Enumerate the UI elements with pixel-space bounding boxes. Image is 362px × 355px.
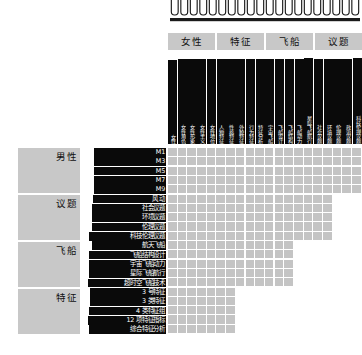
matrix-cell[interactable] xyxy=(216,288,225,296)
matrix-cell[interactable] xyxy=(265,176,274,184)
matrix-cell[interactable] xyxy=(187,288,196,296)
matrix-cell[interactable] xyxy=(255,250,264,258)
matrix-cell[interactable] xyxy=(168,260,177,268)
row-group-header-1[interactable]: 男性 xyxy=(18,148,80,193)
column-label-bar-7[interactable]: 性格特征 xyxy=(226,59,235,144)
matrix-cell[interactable] xyxy=(178,269,187,277)
matrix-cell[interactable] xyxy=(342,148,351,156)
matrix-cell[interactable] xyxy=(207,232,216,240)
matrix-cell[interactable] xyxy=(197,250,206,258)
matrix-cell[interactable] xyxy=(197,297,206,305)
matrix-cell[interactable] xyxy=(313,232,322,240)
matrix-cell[interactable] xyxy=(187,167,196,175)
matrix-cell[interactable] xyxy=(284,167,293,175)
matrix-cell[interactable] xyxy=(187,213,196,221)
matrix-cell[interactable] xyxy=(226,185,235,193)
matrix-cell[interactable] xyxy=(294,204,303,212)
matrix-cell[interactable] xyxy=(236,269,245,277)
matrix-cell[interactable] xyxy=(284,232,293,240)
matrix-cell[interactable] xyxy=(216,241,225,249)
matrix-cell[interactable] xyxy=(304,148,313,156)
matrix-cell[interactable] xyxy=(178,232,187,240)
matrix-cell[interactable] xyxy=(226,315,235,323)
matrix-cell[interactable] xyxy=(216,315,225,323)
matrix-cell[interactable] xyxy=(275,195,284,203)
matrix-cell[interactable] xyxy=(236,185,245,193)
matrix-cell[interactable] xyxy=(168,213,177,221)
matrix-cell[interactable] xyxy=(226,232,235,240)
matrix-cell[interactable] xyxy=(178,297,187,305)
matrix-cell[interactable] xyxy=(265,278,274,286)
matrix-cell[interactable] xyxy=(246,185,255,193)
matrix-cell[interactable] xyxy=(178,195,187,203)
matrix-cell[interactable] xyxy=(187,241,196,249)
matrix-cell[interactable] xyxy=(197,222,206,230)
matrix-cell[interactable] xyxy=(236,241,245,249)
matrix-cell[interactable] xyxy=(168,157,177,165)
column-group-header-3[interactable]: 飞船 xyxy=(266,33,313,50)
matrix-cell[interactable] xyxy=(178,204,187,212)
matrix-cell[interactable] xyxy=(216,250,225,258)
matrix-cell[interactable] xyxy=(313,176,322,184)
matrix-cell[interactable] xyxy=(246,232,255,240)
matrix-cell[interactable] xyxy=(333,157,342,165)
matrix-cell[interactable] xyxy=(187,260,196,268)
matrix-cell[interactable] xyxy=(187,232,196,240)
row-label-bar-17[interactable]: 3 类特征 xyxy=(90,297,166,306)
matrix-cell[interactable] xyxy=(284,148,293,156)
matrix-cell[interactable] xyxy=(178,260,187,268)
column-label-bar-10[interactable]: 特征分析 xyxy=(256,59,265,144)
matrix-cell[interactable] xyxy=(178,148,187,156)
matrix-cell[interactable] xyxy=(304,222,313,230)
matrix-cell[interactable] xyxy=(197,241,206,249)
matrix-cell[interactable] xyxy=(265,241,274,249)
matrix-cell[interactable] xyxy=(275,167,284,175)
matrix-cell[interactable] xyxy=(313,157,322,165)
matrix-cell[interactable] xyxy=(265,250,274,258)
matrix-cell[interactable] xyxy=(323,204,332,212)
matrix-cell[interactable] xyxy=(216,325,225,333)
matrix-cell[interactable] xyxy=(275,269,284,277)
matrix-cell[interactable] xyxy=(236,213,245,221)
matrix-cell[interactable] xyxy=(342,176,351,184)
matrix-cell[interactable] xyxy=(265,232,274,240)
row-label-bar-12[interactable]: 飞船结构设计 xyxy=(89,251,166,260)
matrix-cell[interactable] xyxy=(168,250,177,258)
matrix-cell[interactable] xyxy=(255,278,264,286)
column-label-bar-13[interactable]: 飞船结构 xyxy=(285,59,294,144)
matrix-cell[interactable] xyxy=(284,204,293,212)
matrix-cell[interactable] xyxy=(187,185,196,193)
column-label-bar-3[interactable]: 女性形象 xyxy=(187,59,196,144)
matrix-cell[interactable] xyxy=(323,167,332,175)
matrix-cell[interactable] xyxy=(197,232,206,240)
matrix-cell[interactable] xyxy=(304,232,313,240)
matrix-cell[interactable] xyxy=(207,269,216,277)
matrix-cell[interactable] xyxy=(333,167,342,175)
matrix-cell[interactable] xyxy=(187,250,196,258)
matrix-cell[interactable] xyxy=(168,269,177,277)
column-group-header-1[interactable]: 女性 xyxy=(168,33,215,50)
matrix-cell[interactable] xyxy=(168,325,177,333)
matrix-cell[interactable] xyxy=(207,288,216,296)
matrix-cell[interactable] xyxy=(246,195,255,203)
matrix-cell[interactable] xyxy=(216,185,225,193)
matrix-cell[interactable] xyxy=(207,260,216,268)
row-label-bar-14[interactable]: 星际飞船航行 xyxy=(89,269,166,278)
matrix-cell[interactable] xyxy=(294,176,303,184)
matrix-cell[interactable] xyxy=(187,148,196,156)
matrix-cell[interactable] xyxy=(168,232,177,240)
matrix-cell[interactable] xyxy=(275,260,284,268)
matrix-cell[interactable] xyxy=(304,185,313,193)
matrix-cell[interactable] xyxy=(226,306,235,314)
matrix-cell[interactable] xyxy=(284,278,293,286)
matrix-cell[interactable] xyxy=(236,250,245,258)
matrix-cell[interactable] xyxy=(304,167,313,175)
matrix-cell[interactable] xyxy=(216,232,225,240)
matrix-cell[interactable] xyxy=(197,315,206,323)
matrix-cell[interactable] xyxy=(284,157,293,165)
matrix-cell[interactable] xyxy=(246,204,255,212)
matrix-cell[interactable] xyxy=(284,185,293,193)
matrix-cell[interactable] xyxy=(284,176,293,184)
matrix-cell[interactable] xyxy=(255,222,264,230)
matrix-cell[interactable] xyxy=(168,185,177,193)
